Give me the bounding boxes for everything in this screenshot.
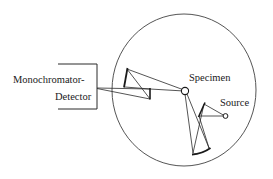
collection-beam [97, 69, 184, 99]
source-circle [223, 114, 228, 119]
collection-mirror-1 [124, 68, 128, 88]
source-label: Source [220, 97, 249, 108]
detector-label-line2: Detector [55, 91, 92, 102]
detector-box [58, 64, 97, 109]
optical-diagram: Monochromator- Detector Specimen Source [0, 0, 273, 179]
detector-label-line1: Monochromator- [13, 74, 85, 85]
specimen-label: Specimen [189, 72, 231, 83]
specimen-circle [181, 87, 188, 94]
illumination-mirror-2 [192, 148, 211, 155]
